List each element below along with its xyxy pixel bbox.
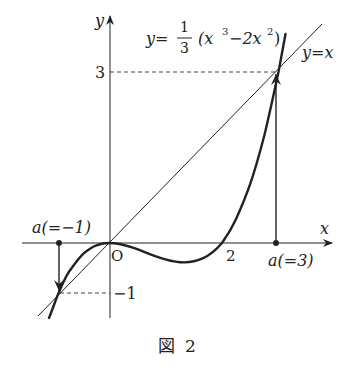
cubic-label-close: ) bbox=[274, 29, 280, 48]
cubic-label-denominator: 3 bbox=[180, 40, 189, 56]
cubic-label-open: (x bbox=[198, 29, 213, 48]
cubic-label-lhs: y= bbox=[145, 29, 168, 48]
cubic-label-mid: −2x bbox=[229, 29, 262, 48]
figure-canvas: y x O 2 3 −1 a(=−1) a(=3) y= 1 3 (x 3 −2… bbox=[0, 0, 353, 380]
cubic-label-exp3: 3 bbox=[222, 26, 228, 37]
y-tick-3-label: 3 bbox=[95, 63, 105, 82]
caption-number: 2 bbox=[185, 336, 196, 356]
point-a-3 bbox=[273, 240, 279, 246]
cubic-equation-label: y= 1 3 (x 3 −2x 2 ) bbox=[145, 19, 280, 56]
caption-kanji: 図 bbox=[158, 336, 175, 356]
x-axis-label: x bbox=[320, 219, 329, 238]
point-a-neg1 bbox=[56, 240, 62, 246]
line-label-y-equals-x: y=x bbox=[301, 43, 333, 62]
cubic-label-exp2: 2 bbox=[267, 26, 273, 37]
a-neg1-label: a(=−1) bbox=[32, 218, 91, 237]
a-3-label: a(=3) bbox=[268, 251, 314, 270]
cubic-label-numerator: 1 bbox=[180, 19, 189, 35]
y-tick-neg1-label: −1 bbox=[113, 284, 137, 303]
cubic-curve bbox=[49, 34, 286, 318]
x-tick-2-label: 2 bbox=[226, 247, 236, 265]
origin-label: O bbox=[111, 247, 123, 265]
y-axis-label: y bbox=[94, 11, 105, 30]
